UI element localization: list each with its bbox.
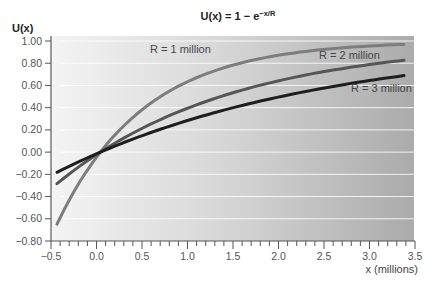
label-r3: R = 3 million [351, 82, 412, 94]
y-tick-label: 0.80 [22, 57, 43, 69]
x-tick-label: 0.5 [135, 250, 150, 262]
x-axis-title: x (millions) [365, 263, 418, 275]
y-tick-label: 0.00 [22, 146, 43, 158]
x-tick-label: 2.5 [317, 250, 332, 262]
x-tick-label: 2.0 [271, 250, 286, 262]
y-tick-label: 0.20 [22, 123, 43, 135]
y-tick-label: −0.60 [15, 212, 42, 224]
x-tick-label: −0.5 [41, 250, 62, 262]
y-tick-label: 0.60 [22, 79, 43, 91]
y-tick-label: 1.00 [22, 35, 43, 47]
y-axis-title: U(x) [12, 22, 34, 34]
label-r1: R = 1 million [150, 43, 211, 55]
y-tick-label: −0.80 [15, 235, 42, 247]
x-tick-label: 0.0 [89, 250, 104, 262]
y-tick-label: −0.20 [15, 168, 42, 180]
x-tick-label: 1.5 [226, 250, 241, 262]
x-tick-label: 3.5 [408, 250, 423, 262]
y-tick-label: 0.40 [22, 101, 43, 113]
chart-title: U(x) = 1 − e−x/R [201, 9, 276, 22]
y-tick-label: −0.40 [15, 190, 42, 202]
x-tick-label: 3.0 [362, 250, 377, 262]
label-r2: R = 2 million [319, 49, 380, 61]
x-tick-label: 1.0 [180, 250, 195, 262]
utility-chart: 1.000.800.600.400.200.00−0.20−0.40−0.60−… [0, 0, 433, 292]
